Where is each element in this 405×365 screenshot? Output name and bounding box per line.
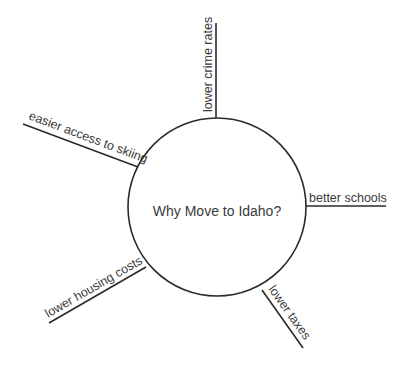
branch-label: easier access to skiing bbox=[27, 109, 150, 166]
branch-lower-taxes: lower taxes bbox=[262, 283, 314, 348]
center-label: Why Move to Idaho? bbox=[153, 203, 282, 219]
branch-lower-crime-rates: lower crime rates bbox=[201, 17, 216, 118]
branch-line bbox=[49, 267, 146, 323]
branch-label: lower crime rates bbox=[201, 17, 215, 112]
branch-label: better schools bbox=[309, 191, 387, 205]
branch-better-schools: better schools bbox=[306, 191, 387, 206]
branch-label: lower taxes bbox=[266, 283, 314, 343]
spider-map-diagram: Why Move to Idaho? lower crime rates bet… bbox=[0, 0, 405, 365]
branch-label: lower housing costs bbox=[43, 254, 145, 321]
branch-easier-access-to-skiing: easier access to skiing bbox=[23, 109, 150, 167]
branch-lower-housing-costs: lower housing costs bbox=[43, 254, 147, 323]
